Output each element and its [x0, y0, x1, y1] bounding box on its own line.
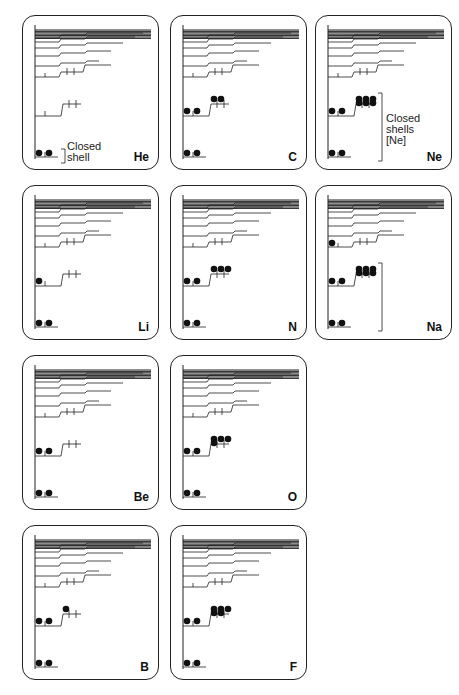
electron-dot [46, 660, 53, 667]
electron-dot [36, 618, 43, 625]
panel-f: F [170, 525, 307, 680]
element-symbol-f: F [290, 660, 297, 674]
electron-dot [184, 278, 191, 285]
panel-be: Be [22, 355, 159, 510]
energy-level-diagram [23, 526, 160, 681]
electron-dot [63, 606, 70, 613]
electron-dot [329, 108, 336, 115]
element-symbol-na: Na [427, 320, 442, 334]
electron-dot [329, 278, 336, 285]
electron-dot [329, 150, 336, 157]
electron-dot [36, 490, 43, 497]
electron-dot [356, 270, 363, 277]
electron-dot [329, 320, 336, 327]
electron-dot [211, 440, 218, 447]
electron-dot [46, 448, 53, 455]
electron-dot [218, 266, 225, 273]
element-symbol-o: O [288, 490, 297, 504]
electron-dot [36, 320, 43, 327]
electron-dot [36, 150, 43, 157]
electron-dot [329, 240, 336, 247]
electron-dot [194, 490, 201, 497]
electron-dot [194, 278, 201, 285]
electron-dot [211, 266, 218, 273]
element-symbol-n: N [288, 320, 297, 334]
closed-shell-note: Closed shell [67, 141, 101, 163]
electron-dot [363, 100, 370, 107]
electron-dot [363, 270, 370, 277]
note-line: [Ne] [386, 135, 420, 146]
electron-dot [194, 150, 201, 157]
electron-dot [194, 448, 201, 455]
element-symbol-b: B [140, 660, 149, 674]
electron-dot [36, 278, 43, 285]
electron-dot [184, 448, 191, 455]
panel-na: Na [315, 185, 452, 340]
panel-o: O [170, 355, 307, 510]
element-symbol-ne: Ne [427, 150, 442, 164]
energy-level-diagram [316, 16, 453, 171]
electron-dot [339, 150, 346, 157]
electron-dot [184, 320, 191, 327]
panel-b: B [22, 525, 159, 680]
energy-level-diagram [171, 186, 308, 341]
electron-dot [194, 108, 201, 115]
electron-dot [184, 618, 191, 625]
energy-level-diagram [23, 186, 160, 341]
electron-dot [225, 266, 232, 273]
panel-c: C [170, 15, 307, 170]
element-symbol-be: Be [134, 490, 149, 504]
electron-dot [194, 618, 201, 625]
energy-level-diagram [171, 526, 308, 681]
electron-dot [370, 100, 377, 107]
electron-dot [194, 320, 201, 327]
electron-dot [356, 100, 363, 107]
element-symbol-li: Li [138, 320, 149, 334]
electron-dot [46, 320, 53, 327]
energy-level-diagram [23, 356, 160, 511]
electron-dot [339, 108, 346, 115]
electron-dot [211, 96, 218, 103]
electron-dot [46, 150, 53, 157]
electron-dot [339, 320, 346, 327]
electron-dot [184, 660, 191, 667]
energy-level-diagram [171, 16, 308, 171]
electron-dot [184, 490, 191, 497]
panel-he: He Closed shell [22, 15, 159, 170]
electron-dot [184, 150, 191, 157]
electron-dot [339, 278, 346, 285]
electron-dot [218, 610, 225, 617]
electron-dot [184, 108, 191, 115]
element-symbol-c: C [288, 150, 297, 164]
electron-dot [225, 436, 232, 443]
electron-dot [370, 270, 377, 277]
electron-dot [36, 448, 43, 455]
electron-dot [46, 490, 53, 497]
energy-level-diagram [171, 356, 308, 511]
electron-dot [211, 610, 218, 617]
electron-dot [218, 96, 225, 103]
electron-dot [194, 660, 201, 667]
electron-dot [46, 618, 53, 625]
element-symbol-he: He [134, 150, 149, 164]
panel-n: N [170, 185, 307, 340]
closed-shells-ne-note: Closed shells [Ne] [386, 113, 420, 146]
energy-level-diagram [316, 186, 453, 341]
panel-li: Li [22, 185, 159, 340]
note-line: shell [67, 152, 101, 163]
electron-dot [218, 436, 225, 443]
electron-dot [225, 606, 232, 613]
electron-dot [36, 660, 43, 667]
panel-ne: Ne Closed shells [Ne] [315, 15, 452, 170]
